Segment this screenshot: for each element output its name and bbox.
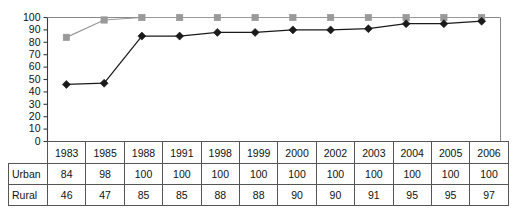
y-axis-tick-label: 10 bbox=[29, 122, 41, 134]
data-point-marker bbox=[139, 14, 145, 20]
data-table-container: 1983198519881991199819992000200220032004… bbox=[8, 141, 508, 206]
data-series-group bbox=[62, 14, 485, 88]
table-column-header: 2002 bbox=[316, 142, 354, 164]
series-rural bbox=[62, 17, 485, 88]
table-cell: 46 bbox=[48, 185, 86, 206]
data-point-marker bbox=[364, 25, 372, 33]
table-cell: 88 bbox=[201, 185, 239, 206]
y-axis-tick-label: 70 bbox=[29, 48, 41, 60]
table-cell: 90 bbox=[316, 185, 354, 206]
y-axis-tick-label: 60 bbox=[29, 60, 41, 72]
series-line bbox=[66, 18, 481, 38]
table-header-row: 1983198519881991199819992000200220032004… bbox=[9, 142, 509, 164]
table-cell: 88 bbox=[239, 185, 277, 206]
y-axis-tick-label: 40 bbox=[29, 85, 41, 97]
table-cell: 100 bbox=[393, 164, 431, 185]
table-cell: 100 bbox=[163, 164, 201, 185]
table-column-header: 2006 bbox=[470, 142, 508, 164]
y-axis-tick-label: 90 bbox=[29, 23, 41, 35]
data-point-marker bbox=[176, 14, 182, 20]
table-column-header: 1988 bbox=[124, 142, 162, 164]
table-cell: 84 bbox=[48, 164, 86, 185]
table-cell: 100 bbox=[316, 164, 354, 185]
data-point-marker bbox=[214, 14, 220, 20]
table-cell: 90 bbox=[278, 185, 316, 206]
line-chart: 1009080706050403020100 bbox=[0, 0, 519, 145]
data-point-marker bbox=[327, 26, 335, 34]
chart-figure: 1009080706050403020100 19831985198819911… bbox=[0, 0, 519, 210]
table-cell: 100 bbox=[124, 164, 162, 185]
table-column-header: 2004 bbox=[393, 142, 431, 164]
table-cell: 100 bbox=[431, 164, 469, 185]
y-axis-tick-label: 50 bbox=[29, 73, 41, 85]
data-point-marker bbox=[251, 28, 259, 36]
table-row-label: Urban bbox=[9, 164, 48, 185]
data-point-marker bbox=[62, 80, 70, 88]
data-point-marker bbox=[289, 26, 297, 34]
plot-area-border bbox=[48, 18, 501, 142]
data-point-marker bbox=[213, 28, 221, 36]
table-row: Urban8498100100100100100100100100100100 bbox=[9, 164, 509, 185]
table-cell: 100 bbox=[201, 164, 239, 185]
data-point-marker bbox=[63, 34, 69, 40]
table-cell: 47 bbox=[86, 185, 124, 206]
table-column-header: 1983 bbox=[48, 142, 86, 164]
table-cell: 91 bbox=[355, 185, 393, 206]
data-point-marker bbox=[101, 17, 107, 23]
y-axis-tick-label: 80 bbox=[29, 36, 41, 48]
table-column-header: 1991 bbox=[163, 142, 201, 164]
series-line bbox=[66, 21, 481, 84]
data-point-marker bbox=[252, 14, 258, 20]
data-point-marker bbox=[176, 32, 184, 40]
table-column-header: 2003 bbox=[355, 142, 393, 164]
table-cell: 100 bbox=[239, 164, 277, 185]
table-cell: 97 bbox=[470, 185, 508, 206]
table-row-label: Rural bbox=[9, 185, 48, 206]
y-axis-tick-label: 30 bbox=[29, 98, 41, 110]
table-column-header: 2000 bbox=[278, 142, 316, 164]
table-cell: 85 bbox=[163, 185, 201, 206]
table-column-header: 1999 bbox=[239, 142, 277, 164]
table-cell: 100 bbox=[355, 164, 393, 185]
y-axis: 1009080706050403020100 bbox=[23, 11, 48, 145]
table-cell: 100 bbox=[470, 164, 508, 185]
table-row: Rural464785858888909091959597 bbox=[9, 185, 509, 206]
chart-canvas: 1009080706050403020100 bbox=[0, 0, 519, 145]
table-corner-blank bbox=[9, 142, 48, 164]
data-point-marker bbox=[327, 14, 333, 20]
table-column-header: 1998 bbox=[201, 142, 239, 164]
table-column-header: 2005 bbox=[431, 142, 469, 164]
data-point-marker bbox=[365, 14, 371, 20]
y-axis-tick-label: 100 bbox=[23, 11, 41, 23]
table-cell: 95 bbox=[393, 185, 431, 206]
series-urban bbox=[63, 14, 485, 40]
table-cell: 98 bbox=[86, 164, 124, 185]
data-point-marker bbox=[290, 14, 296, 20]
table-column-header: 1985 bbox=[86, 142, 124, 164]
data-table: 1983198519881991199819992000200220032004… bbox=[8, 141, 509, 206]
table-cell: 95 bbox=[431, 185, 469, 206]
table-cell: 100 bbox=[278, 164, 316, 185]
table-cell: 85 bbox=[124, 185, 162, 206]
y-axis-tick-label: 20 bbox=[29, 110, 41, 122]
